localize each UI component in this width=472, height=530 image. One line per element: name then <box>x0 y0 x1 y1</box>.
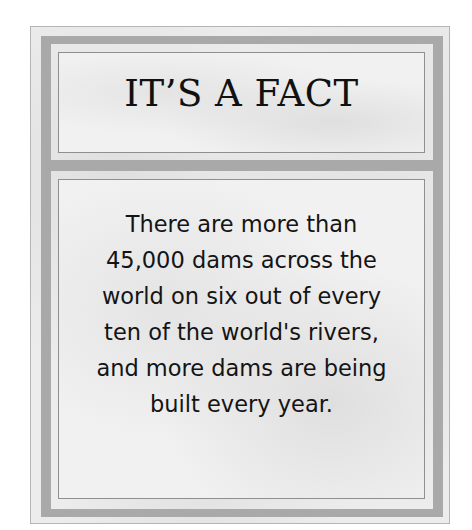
fact-line: ten of the world's rivers, <box>59 314 424 350</box>
fact-line: built every year. <box>59 386 424 422</box>
frame-band-top <box>41 36 441 44</box>
body-panel: There are more than 45,000 dams across t… <box>58 179 425 499</box>
title-panel: IT’S A FACT <box>58 52 425 153</box>
fact-text: There are more than 45,000 dams across t… <box>59 206 424 422</box>
frame-divider <box>41 160 441 171</box>
frame-band-right <box>433 36 443 517</box>
fact-line: 45,000 dams across the <box>59 242 424 278</box>
fact-card: IT’S A FACT There are more than 45,000 d… <box>30 26 450 524</box>
fact-line: There are more than <box>59 206 424 242</box>
fact-line: world on six out of every <box>59 278 424 314</box>
frame-band-bottom <box>41 509 441 517</box>
frame-band-left <box>41 36 51 517</box>
card-title: IT’S A FACT <box>124 72 358 115</box>
fact-line: and more dams are being <box>59 350 424 386</box>
